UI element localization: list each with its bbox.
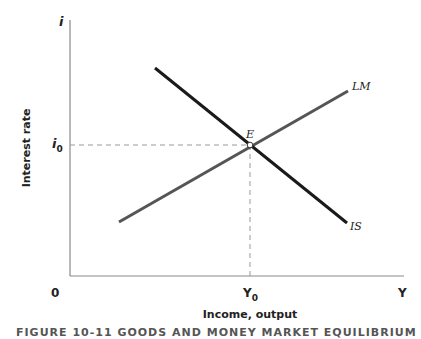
y-axis-title: Interest rate (20, 109, 33, 188)
lm-curve (119, 91, 348, 222)
is-label: IS (349, 220, 362, 233)
i0-label: i0 (52, 136, 63, 154)
y0-label: Y0 (242, 286, 258, 303)
figure-caption: FIGURE 10-11 GOODS AND MONEY MARKET EQUI… (16, 326, 417, 339)
equilibrium-label: E (245, 128, 254, 141)
lm-label: LM (351, 80, 371, 93)
y-axis-symbol: i (59, 14, 64, 29)
x-axis-title: Income, output (203, 308, 298, 321)
equilibrium-point (247, 142, 253, 148)
x-axis-symbol: Y (397, 286, 407, 300)
origin-label: 0 (51, 286, 59, 300)
